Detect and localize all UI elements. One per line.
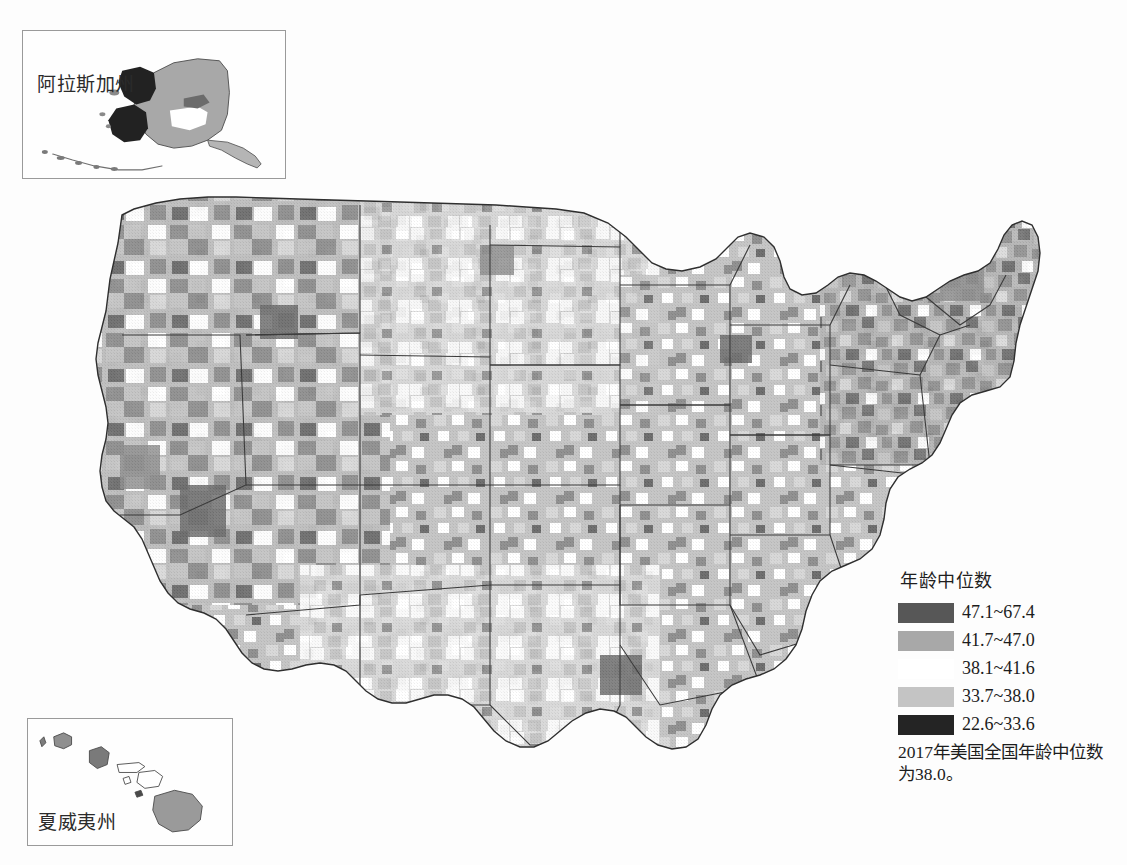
legend-swatch-33-7-38-0 <box>898 687 954 707</box>
island-hawaii <box>153 790 203 832</box>
hawaii-inset: 夏威夷州 <box>27 718 233 846</box>
legend-label: 33.7~38.0 <box>962 686 1035 707</box>
legend-label: 47.1~67.4 <box>962 602 1035 623</box>
island-oahu <box>89 747 109 769</box>
alaska-region-dark-sw <box>108 104 148 142</box>
legend: 年龄中位数 47.1~67.4 41.7~47.0 38.1~41.6 33.7… <box>898 566 1124 786</box>
alaska-inset-label: 阿拉斯加州 <box>37 69 135 96</box>
alaska-map-svg <box>23 31 285 179</box>
legend-item: 38.1~41.6 <box>898 655 1124 682</box>
island-niihau <box>40 737 46 747</box>
legend-label: 22.6~33.6 <box>962 714 1035 735</box>
legend-item: 41.7~47.0 <box>898 627 1124 654</box>
median-age-county-map-figure: 阿拉斯加州 夏威夷州 年龄中位数 47.1~67.4 41.7~4 <box>0 0 1127 865</box>
legend-swatch-47-1-67-4 <box>898 603 954 623</box>
legend-label: 38.1~41.6 <box>962 658 1035 679</box>
island-kahoolawe <box>135 790 143 797</box>
legend-item: 47.1~67.4 <box>898 599 1124 626</box>
island-kauai <box>54 733 72 749</box>
legend-swatch-22-6-33-6 <box>898 715 954 735</box>
island-maui <box>137 770 163 788</box>
legend-note-line-1: 2017年美国全国年龄中位数 <box>898 741 1127 763</box>
alaska-panhandle <box>208 140 262 168</box>
legend-swatch-38-1-41-6 <box>898 659 954 679</box>
legend-item: 33.7~38.0 <box>898 683 1124 710</box>
legend-label: 41.7~47.0 <box>962 630 1035 651</box>
legend-title: 年龄中位数 <box>900 566 1124 592</box>
island-molokai <box>117 763 145 773</box>
hawaii-inset-label: 夏威夷州 <box>38 807 116 834</box>
alaska-inset: 阿拉斯加州 <box>22 30 286 179</box>
island-lanai <box>123 776 131 784</box>
aleutian-chain <box>53 154 162 170</box>
legend-note: 2017年美国全国年龄中位数 为38.0。 <box>898 741 1127 786</box>
legend-note-line-2: 为38.0。 <box>898 763 1127 785</box>
legend-swatch-41-7-47-0 <box>898 631 954 651</box>
legend-item: 22.6~33.6 <box>898 711 1124 738</box>
